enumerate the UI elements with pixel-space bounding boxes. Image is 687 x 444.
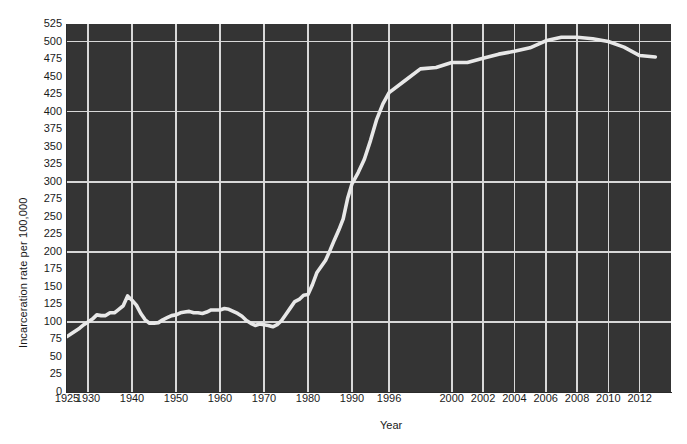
y-tick-label-275: 275 — [22, 193, 62, 204]
y-axis-tick-labels: 5255004754504254003753503253002752502252… — [22, 0, 62, 400]
y-tick-label-500: 500 — [22, 36, 62, 47]
y-axis-spine — [66, 24, 67, 393]
y-tick-label-375: 375 — [22, 123, 62, 134]
horizontal-gridlines — [67, 42, 671, 322]
y-tick-label-325: 325 — [22, 158, 62, 169]
y-tick-label-175: 175 — [22, 263, 62, 274]
chart-canvas — [67, 24, 671, 392]
x-tick-label-2010: 2010 — [596, 392, 620, 404]
y-tick-label-400: 400 — [22, 106, 62, 117]
y-tick-label-125: 125 — [22, 298, 62, 309]
y-tick-label-525: 525 — [22, 18, 62, 29]
x-axis-title: Year — [380, 419, 402, 431]
x-tick-label-1960: 1960 — [208, 392, 232, 404]
vertical-gridlines — [88, 24, 640, 392]
y-axis-title-wrap: Incarceration rate per 100,000 — [0, 0, 20, 400]
y-tick-label-300: 300 — [22, 176, 62, 187]
x-tick-label-1930: 1930 — [76, 392, 100, 404]
y-tick-label-150: 150 — [22, 281, 62, 292]
y-tick-label-350: 350 — [22, 141, 62, 152]
x-tick-label-1970: 1970 — [252, 392, 276, 404]
y-tick-label-50: 50 — [22, 351, 62, 362]
x-tick-label-2002: 2002 — [471, 392, 495, 404]
x-tick-label-1980: 1980 — [296, 392, 320, 404]
x-tick-label-2000: 2000 — [439, 392, 463, 404]
incarceration-rate-line-chart: Incarceration rate per 100,000 525500475… — [0, 0, 687, 444]
y-tick-label-475: 475 — [22, 53, 62, 64]
x-tick-label-1940: 1940 — [120, 392, 144, 404]
y-tick-label-25: 25 — [22, 368, 62, 379]
x-tick-label-2008: 2008 — [565, 392, 589, 404]
x-tick-label-2012: 2012 — [627, 392, 651, 404]
y-tick-label-200: 200 — [22, 246, 62, 257]
x-tick-label-1950: 1950 — [164, 392, 188, 404]
x-axis-tick-labels: 1925193019401950196019701980199019962000… — [0, 392, 687, 408]
y-tick-label-100: 100 — [22, 316, 62, 327]
y-tick-label-425: 425 — [22, 88, 62, 99]
incarceration-rate-series — [67, 37, 655, 336]
x-tick-label-1996: 1996 — [377, 392, 401, 404]
y-tick-label-250: 250 — [22, 211, 62, 222]
y-tick-label-225: 225 — [22, 228, 62, 239]
y-tick-label-450: 450 — [22, 71, 62, 82]
x-tick-label-2004: 2004 — [502, 392, 526, 404]
x-tick-label-2006: 2006 — [533, 392, 557, 404]
x-tick-label-1990: 1990 — [340, 392, 364, 404]
plot-area — [67, 24, 671, 392]
y-tick-label-75: 75 — [22, 333, 62, 344]
